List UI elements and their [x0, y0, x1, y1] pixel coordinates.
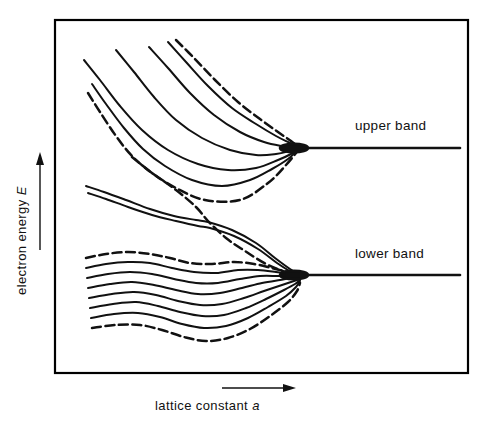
lower-band-degenerate-level [280, 271, 308, 279]
band-structure-figure: electron energy E lattice constant a upp… [0, 0, 483, 423]
upper-band-degenerate-level [280, 144, 308, 152]
x-axis-label-text: lattice constant [155, 398, 248, 413]
x-axis-label: lattice constant a [155, 398, 260, 413]
y-axis-label-text: electron energy [14, 199, 29, 295]
lower-band-label: lower band [355, 246, 424, 261]
figure-canvas: electron energy E lattice constant a upp… [0, 0, 483, 423]
y-axis-label: electron energy E [14, 186, 29, 295]
figure-background [0, 0, 483, 423]
y-axis-label-symbol: E [14, 186, 29, 195]
x-axis-label-symbol: a [252, 398, 260, 413]
y-axis-label-group: electron energy E [14, 186, 29, 295]
upper-band-label: upper band [355, 118, 426, 133]
